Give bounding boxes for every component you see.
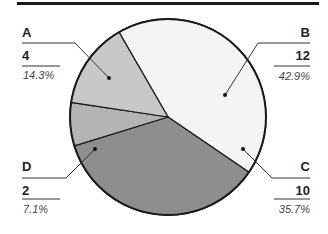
label-d-percent: 7.1% bbox=[23, 203, 48, 215]
pie-chart: A 4 14.3% B 12 42.9% C 10 35.7% D 2 7.1% bbox=[0, 0, 328, 234]
label-c-percent: 35.7% bbox=[279, 203, 310, 215]
label-d-value: 2 bbox=[22, 183, 29, 198]
anchor-dot-d bbox=[93, 147, 97, 151]
label-b-value: 12 bbox=[296, 48, 310, 63]
label-a-percent: 14.3% bbox=[23, 69, 54, 81]
label-a-value: 4 bbox=[22, 48, 30, 63]
label-b-percent: 42.9% bbox=[279, 70, 310, 82]
anchor-dot-b bbox=[223, 93, 227, 97]
label-c-value: 10 bbox=[296, 183, 310, 198]
label-d-name: D bbox=[22, 159, 31, 174]
anchor-dot-c bbox=[241, 147, 245, 151]
label-c: C 10 35.7% bbox=[241, 147, 311, 215]
label-a-name: A bbox=[22, 25, 32, 40]
anchor-dot-a bbox=[107, 76, 111, 80]
label-b-name: B bbox=[301, 25, 310, 40]
label-c-name: C bbox=[301, 159, 311, 174]
